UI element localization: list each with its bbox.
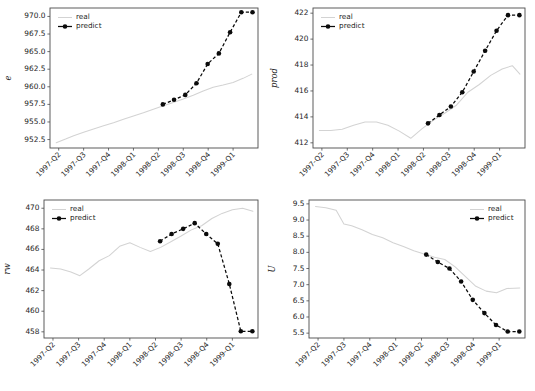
legend-marker-predict: [326, 24, 331, 29]
data-point-marker: [169, 232, 174, 237]
chart-prod: 412414416418420422prod1997-Q21997-Q31997…: [267, 0, 535, 196]
x-tick-label: 1997-Q3: [59, 150, 88, 179]
y-tick-label: 9.0: [293, 215, 305, 224]
y-tick-label: 414: [294, 112, 308, 121]
y-tick-label: 464: [25, 265, 39, 274]
data-point-marker: [194, 81, 199, 86]
legend-label-predict: predict: [70, 213, 96, 222]
y-tick-label: 967.5: [24, 29, 45, 38]
y-tick-label: 466: [25, 244, 39, 253]
data-point-marker: [447, 266, 452, 271]
data-point-marker: [460, 90, 465, 95]
y-tick-label: 6.5: [293, 296, 305, 305]
x-axis-rw: 1997-Q21997-Q31997-Q41998-Q11998-Q21998-…: [28, 338, 236, 369]
x-tick-label: 1998-Q2: [131, 340, 160, 369]
y-tick-label: 416: [294, 86, 308, 95]
data-point-marker: [239, 10, 244, 15]
data-point-marker: [181, 227, 186, 232]
legend-e: realpredict: [55, 12, 109, 32]
x-tick-label: 1997-Q2: [293, 340, 322, 369]
y-tick-label: 460: [25, 306, 39, 315]
x-tick-label: 1998-Q1: [371, 340, 400, 369]
x-axis-U: 1997-Q21997-Q31997-Q41998-Q11998-Q21998-…: [293, 338, 503, 369]
x-tick-label: 1997-Q2: [297, 150, 326, 179]
data-point-marker: [192, 221, 197, 226]
y-tick-label: 418: [294, 60, 308, 69]
x-tick-label: 1998-Q1: [105, 340, 134, 369]
data-point-marker: [506, 13, 511, 18]
y-tick-label: 468: [25, 224, 39, 233]
y-tick-label: 5.5: [293, 328, 305, 337]
data-point-marker: [172, 98, 177, 103]
x-tick-label: 1998-Q4: [182, 340, 211, 369]
data-point-marker: [250, 10, 255, 15]
y-tick-label: 9.5: [293, 199, 305, 208]
data-point-marker: [217, 51, 222, 56]
data-point-marker: [494, 28, 499, 33]
y-axis-label-U: U: [267, 265, 277, 273]
legend-marker-predict: [63, 24, 68, 29]
legend-marker-predict: [475, 216, 480, 221]
data-point-marker: [250, 329, 255, 334]
y-axis-label-rw: rw: [2, 263, 12, 274]
y-tick-label: 470: [25, 203, 39, 212]
y-tick-label: 965.0: [24, 47, 45, 56]
data-point-marker: [426, 121, 431, 126]
x-tick-label: 1997-Q3: [319, 340, 348, 369]
y-tick-label: 458: [25, 327, 39, 336]
y-tick-label: 957.5: [24, 99, 45, 108]
x-tick-label: 1998-Q3: [156, 340, 185, 369]
y-tick-label: 412: [294, 138, 308, 147]
x-tick-label: 1997-Q3: [323, 150, 352, 179]
y-tick-label: 6.0: [293, 312, 305, 321]
chart-U: 5.56.06.57.07.58.08.59.09.5U1997-Q21997-…: [267, 190, 535, 391]
legend-label-predict: predict: [488, 213, 514, 222]
figure-canvas: 952.5955.0957.5960.0962.5965.0967.5970.0…: [0, 0, 535, 391]
panel-rw: 458460462464466468470rw1997-Q21997-Q3199…: [0, 190, 268, 391]
y-axis-rw: 458460462464466468470: [25, 203, 44, 336]
x-tick-label: 1998-Q1: [109, 150, 138, 179]
x-tick-label: 1998-Q4: [184, 150, 213, 179]
x-tick-label: 1997-Q4: [345, 340, 374, 369]
x-tick-label: 1998-Q2: [399, 150, 428, 179]
data-point-marker: [494, 323, 499, 328]
legend-label-real: real: [488, 204, 502, 213]
data-point-marker: [517, 13, 522, 18]
y-tick-label: 962.5: [24, 64, 45, 73]
data-point-marker: [205, 62, 210, 67]
y-tick-label: 7.0: [293, 280, 305, 289]
legend-label-real: real: [70, 204, 84, 213]
x-tick-label: 1998-Q3: [424, 150, 453, 179]
data-point-marker: [183, 93, 188, 98]
legend-U: realpredict: [467, 204, 521, 224]
legend-label-real: real: [339, 12, 353, 21]
x-tick-label: 1999-Q1: [474, 340, 503, 369]
data-point-marker: [459, 279, 464, 284]
data-point-marker: [424, 252, 429, 257]
x-tick-label: 1997-Q4: [348, 150, 377, 179]
y-axis-prod: 412414416418420422: [294, 8, 313, 147]
data-point-marker: [215, 241, 220, 246]
legend-label-real: real: [76, 12, 90, 21]
chart-e: 952.5955.0957.5960.0962.5965.0967.5970.0…: [0, 0, 268, 196]
y-tick-label: 420: [294, 34, 308, 43]
x-tick-label: 1998-Q3: [159, 150, 188, 179]
y-axis-e: 952.5955.0957.5960.0962.5965.0967.5970.0: [24, 11, 50, 143]
data-point-marker: [437, 113, 442, 118]
x-tick-label: 1998-Q4: [450, 150, 479, 179]
data-point-marker: [449, 104, 454, 109]
x-tick-label: 1998-Q1: [373, 150, 402, 179]
x-tick-label: 1999-Q1: [475, 150, 504, 179]
x-axis-prod: 1997-Q21997-Q31997-Q41998-Q11998-Q21998-…: [297, 148, 503, 179]
legend-marker-predict: [57, 216, 62, 221]
x-tick-label: 1997-Q4: [80, 340, 109, 369]
legend-label-predict: predict: [339, 21, 365, 30]
y-tick-label: 462: [25, 286, 39, 295]
y-tick-label: 8.5: [293, 231, 305, 240]
panel-U: 5.56.06.57.07.58.08.59.09.5U1997-Q21997-…: [267, 190, 535, 391]
data-point-marker: [436, 260, 441, 265]
x-tick-label: 1999-Q1: [208, 150, 237, 179]
y-tick-label: 8.0: [293, 247, 305, 256]
data-point-marker: [228, 30, 233, 35]
x-tick-label: 1999-Q1: [208, 340, 237, 369]
